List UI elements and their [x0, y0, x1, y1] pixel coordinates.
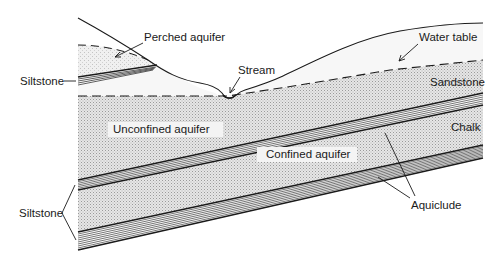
- aquiclude-leader-lower: [378, 177, 410, 198]
- aquiclude-label: Aquiclude: [411, 199, 462, 211]
- stream-leader: [230, 77, 240, 93]
- stream-label: Stream: [238, 64, 275, 76]
- chalk-label: Chalk: [451, 121, 481, 133]
- unconfined-aquifer-label: Unconfined aquifer: [113, 123, 210, 135]
- confined-aquifer-label: Confined aquifer: [266, 148, 351, 160]
- aquifer-cross-section-diagram: Perched aquifer Water table Stream Silts…: [0, 0, 499, 264]
- sandstone-label: Sandstone: [430, 76, 485, 88]
- water-table-label: Water table: [419, 31, 477, 43]
- stream-arrowhead: [230, 87, 235, 93]
- perched-aquifer-label: Perched aquifer: [144, 31, 225, 43]
- siltstone-upper-label: Siltstone: [20, 75, 64, 87]
- siltstone-lower-label: Siltstone: [19, 207, 63, 219]
- siltstone-lower-brace: [62, 185, 76, 240]
